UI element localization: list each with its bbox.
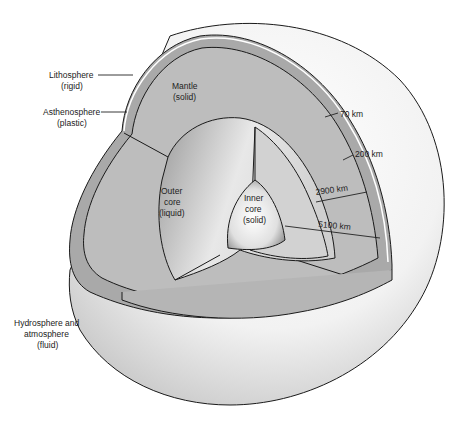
mantle-label: Mantle <box>172 81 198 91</box>
inner-core-state: (solid) <box>243 215 266 225</box>
outer-core-state: (liquid) <box>159 208 185 218</box>
lithosphere-state: (rigid) <box>61 81 83 91</box>
hydrosphere-label-1: Hydrosphere and <box>14 318 79 328</box>
mantle-state: (solid) <box>173 92 196 102</box>
depth-70km-label: 70 km <box>340 109 363 119</box>
inner-core-label-1: Inner <box>244 193 264 203</box>
outer-core-label-1: Outer <box>161 186 182 196</box>
lithosphere-label: Lithosphere <box>49 70 94 80</box>
inner-core-label-2: core <box>245 204 262 214</box>
hydrosphere-state: (fluid) <box>37 340 58 350</box>
asthenosphere-label: Asthenosphere <box>43 107 100 117</box>
hydrosphere-label-2: atmosphere <box>24 329 69 339</box>
asthenosphere-state: (plastic) <box>57 118 87 128</box>
earth-cutaway-diagram: Lithosphere (rigid) Asthenosphere (plast… <box>0 0 464 424</box>
outer-core-label-2: core <box>164 197 181 207</box>
depth-200km-label: 200 km <box>355 149 383 159</box>
